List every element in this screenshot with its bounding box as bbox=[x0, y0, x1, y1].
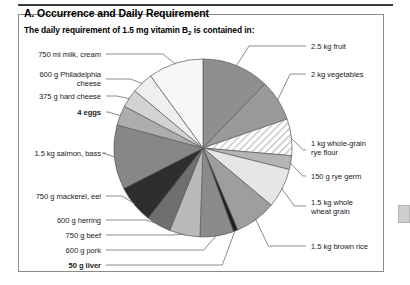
pie-label-philadelphia-cheese: 600 g Philadelphia cheese bbox=[39, 70, 101, 88]
subtitle-prefix: The daily requirement of 1.5 mg vitamin … bbox=[24, 25, 188, 35]
pie-label-fruit: 2.5 kg fruit bbox=[311, 42, 346, 51]
pie-label-liver: 50 g liver bbox=[69, 261, 101, 270]
pie-label-mackerel-eel: 750 g mackerel, eel bbox=[36, 192, 101, 201]
top-horizontal-rule bbox=[18, 4, 393, 6]
pie-label-beef: 750 g beef bbox=[66, 231, 101, 240]
figure-subtitle: The daily requirement of 1.5 mg vitamin … bbox=[24, 25, 254, 35]
pie-label-brown-rice: 1.5 kg brown rice bbox=[311, 242, 368, 251]
pie-label-whole-wheat-grain: 1.5 kg whole wheat grain bbox=[311, 198, 353, 216]
pie-label-rye-flour: 1 kg whole-grain rye flour bbox=[311, 139, 366, 157]
pie-label-salmon-bass: 1.5 kg salmon, bass bbox=[34, 149, 101, 158]
page-title: A. Occurrence and Daily Requirement bbox=[24, 7, 209, 19]
pie-label-eggs: 4 eggs bbox=[77, 108, 101, 117]
pie-label-milk-cream: 750 ml milk, cream bbox=[38, 50, 101, 59]
pie-label-rye-germ: 150 g rye germ bbox=[311, 172, 361, 181]
page-edge-tab-marker bbox=[398, 205, 410, 223]
pie-label-vegetables: 2 kg vegetables bbox=[311, 70, 363, 79]
subtitle-subscript: 2 bbox=[188, 29, 191, 36]
pie-label-herring: 600 g herring bbox=[57, 216, 101, 225]
subtitle-suffix: is contained in: bbox=[192, 25, 255, 35]
pie-label-pork: 600 g pork bbox=[66, 246, 101, 255]
pie-label-hard-cheese: 375 g hard cheese bbox=[39, 92, 101, 101]
